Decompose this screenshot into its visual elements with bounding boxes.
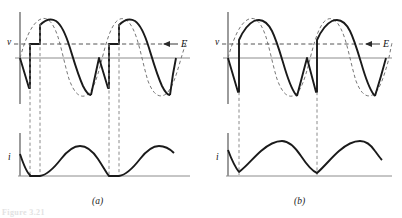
panel-a-voltage-label: v [7,37,12,47]
panel-a-E-arrow-head [163,41,170,47]
panel-a-drop-lines [30,24,119,175]
panel-a: v E [7,12,190,176]
panel-b-E-label: E [382,38,389,49]
panel-a-voltage-subplot: v E [7,12,190,104]
panel-a-E-annotation: E [163,38,187,49]
panel-b-current-subplot: i [216,133,392,176]
panel-b-E-arrow-head [365,41,372,47]
panel-b-load-current [228,141,382,173]
panel-b-voltage-label: v [215,37,220,47]
panel-a-current-label: i [8,152,11,162]
panel-a-load-current [20,146,174,176]
figure-number: Figure 3.21 [2,208,45,217]
panel-b: v E i [215,12,392,176]
panel-b-output-voltage-tail [375,58,386,96]
panel-b-E-annotation: E [365,38,389,49]
panel-b-source-sine-dashed [228,18,392,96]
panel-a-caption: (a) [92,196,103,206]
panel-a-current-subplot: i [8,133,190,176]
panel-b-voltage-subplot: v E [215,12,392,104]
panel-a-E-label: E [180,38,187,49]
panel-a-output-voltage-cycle2 [91,19,170,95]
waveform-figure: v E [0,0,402,218]
figure-canvas: v E [0,0,402,218]
panel-a-output-voltage-tail [170,58,176,95]
panel-b-caption: (b) [294,196,305,206]
panel-b-current-label: i [216,152,219,162]
